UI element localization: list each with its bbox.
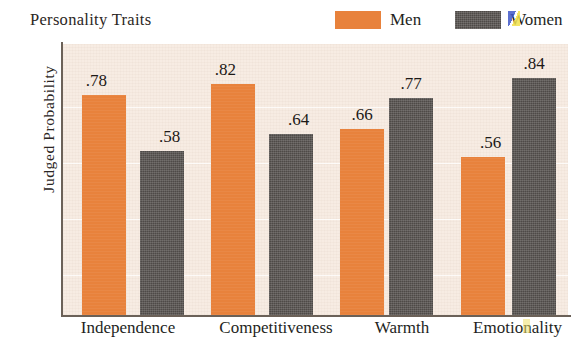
legend-label-women: Women xyxy=(510,10,562,30)
x-tick-independence: Independence xyxy=(63,318,193,338)
x-tick-emotionality: Emotionality xyxy=(450,318,585,338)
bar-emotionality-women-value-label: .84 xyxy=(523,54,544,74)
bar-competitiveness-men-value-label: .82 xyxy=(215,60,236,80)
bar-competitiveness-women-value-label: .64 xyxy=(288,110,309,130)
bar-independence-men: .78 xyxy=(82,95,126,315)
x-axis-line xyxy=(61,315,571,317)
legend-item-women: Women xyxy=(455,10,562,30)
bar-competitiveness-men: .82 xyxy=(211,84,255,315)
scan-artifact: n xyxy=(523,318,532,337)
y-axis-label: Judged Probability xyxy=(40,14,58,244)
legend-item-men: Men xyxy=(335,10,421,30)
plot-area: .78.58.82.64.66.77.56.84 xyxy=(63,44,568,315)
x-axis-tick-labels: Independence Competitiveness Warmth Emot… xyxy=(0,318,585,354)
bar-independence-women-value-label: .58 xyxy=(159,127,180,147)
bar-warmth-men: .66 xyxy=(340,129,384,315)
bar-independence-women: .58 xyxy=(140,151,184,315)
bar-warmth-women: .77 xyxy=(389,98,433,315)
bar-emotionality-men: .56 xyxy=(461,157,505,315)
bar-warmth-men-value-label: .66 xyxy=(351,105,372,125)
personality-traits-chart: Personality Traits Men Women Judged Prob… xyxy=(0,0,585,357)
legend-label-men: Men xyxy=(390,10,421,30)
gridline xyxy=(63,107,568,108)
men-color-swatch xyxy=(335,11,381,29)
bar-emotionality-men-value-label: .56 xyxy=(480,133,501,153)
bar-warmth-women-value-label: .77 xyxy=(400,74,421,94)
chart-legend: Men Women xyxy=(335,7,563,33)
women-color-swatch xyxy=(455,11,501,29)
x-tick-warmth: Warmth xyxy=(352,318,452,338)
bar-independence-men-value-label: .78 xyxy=(86,71,107,91)
bar-competitiveness-women: .64 xyxy=(269,134,313,315)
bar-emotionality-women: .84 xyxy=(512,78,556,315)
x-tick-competitiveness: Competitiveness xyxy=(196,318,356,338)
